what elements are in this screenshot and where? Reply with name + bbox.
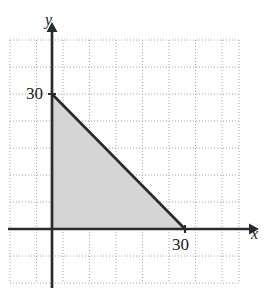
x-intercept-tick-label: 30 <box>172 236 189 253</box>
y-intercept-tick-label: 30 <box>26 85 43 102</box>
graph-figure: y x 30 30 <box>0 0 264 288</box>
x-axis-label: x <box>251 226 258 242</box>
coordinate-plane-svg <box>0 0 264 288</box>
y-axis-label: y <box>45 12 52 28</box>
grid-lines <box>10 40 239 283</box>
